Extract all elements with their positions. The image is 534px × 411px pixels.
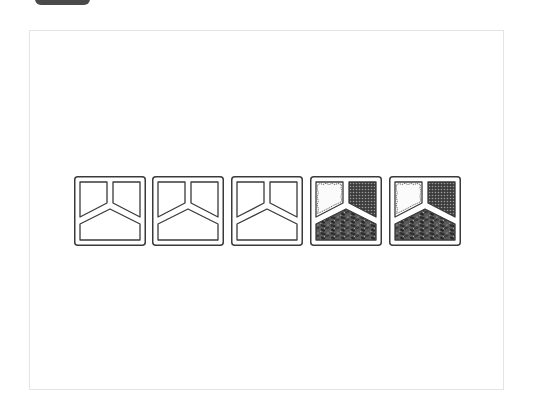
top-badge [35,0,90,5]
divided-tray-icon [74,176,146,246]
tray-empty-2 [152,176,224,246]
filled-tray-icon [389,176,461,246]
tray-empty-3 [231,176,303,246]
tray-filled-2 [389,176,461,246]
tray-empty-1 [74,176,146,246]
filled-tray-icon [310,176,382,246]
tray-filled-1 [310,176,382,246]
divided-tray-icon [231,176,303,246]
divided-tray-icon [152,176,224,246]
